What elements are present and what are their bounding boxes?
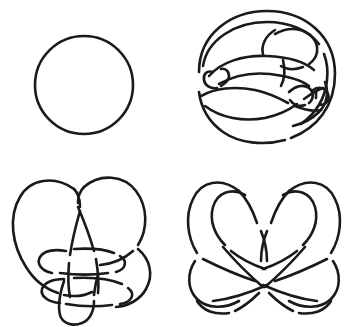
lower-ellipse-bottom (66, 304, 112, 306)
left-outer-arch (188, 183, 239, 253)
descending-strand-right (78, 207, 94, 251)
right-lobe (84, 178, 145, 245)
knot-figure (0, 0, 354, 327)
middle-s-left (201, 88, 288, 103)
left-lobe (13, 181, 74, 293)
three-lobe-knot-strands (13, 178, 150, 325)
knot-panel-complex-unknot (177, 0, 354, 164)
right-upper-loop (275, 29, 317, 64)
lower-ellipse-right (120, 288, 132, 304)
three-lobe-knot-diagram (0, 163, 177, 327)
center-connector-a (263, 30, 276, 54)
knot-panel-three-lobe-knot (0, 163, 177, 327)
center-top-left-strand (239, 191, 257, 223)
knot-panel-four-lobe-knot (177, 163, 354, 327)
lens-lower-arc (219, 73, 309, 86)
knot-panel-unknot-circle (0, 0, 177, 164)
lower-sweep-left (205, 104, 297, 120)
right-lobe-lower (100, 251, 133, 265)
upper-ellipse-bottom (60, 273, 108, 275)
complex-unknot-diagram (177, 0, 354, 164)
left-inner-arch (212, 191, 245, 245)
bottom-hanging-loop-left (59, 281, 94, 325)
descending-strand-left-low (68, 263, 70, 297)
right-inner-arch (283, 191, 316, 245)
top-arch-right (78, 187, 84, 203)
four-lobe-knot-diagram (177, 163, 354, 327)
upper-ellipse-left (39, 250, 66, 273)
center-connector-b (281, 60, 284, 86)
unknot-circle-diagram (0, 0, 177, 164)
right-outer-arch (289, 183, 340, 253)
inner-oval-top-left (203, 22, 319, 66)
complex-unknot-strands (199, 11, 335, 143)
unknot-circle-strand (35, 36, 133, 134)
four-lobe-knot-strands (188, 183, 340, 314)
sweep-left-to-right-mid (263, 285, 317, 301)
center-top-right-strand (271, 191, 289, 223)
